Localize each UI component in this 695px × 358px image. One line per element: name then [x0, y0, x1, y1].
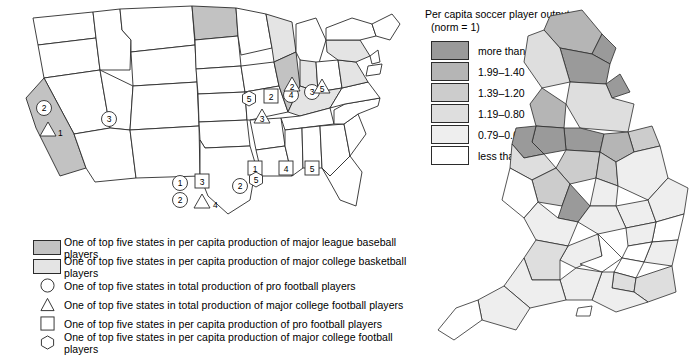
state-ok [199, 120, 250, 148]
legend-label-pro-football-percapita: One of top five states in per capita pro… [64, 318, 382, 330]
legend-label-college-football-total: One of top five states in total producti… [64, 299, 403, 311]
state-new-england [372, 14, 400, 40]
us-map-graphic: 2 3 4 3 1 2 2 1 2 5 3 4 2 3 1 4 5 [0, 0, 420, 235]
legend-row-pro-football-total: One of top five states in total producti… [30, 276, 420, 295]
svg-text:2: 2 [238, 181, 243, 191]
square-key [30, 316, 64, 331]
svg-text:5: 5 [247, 94, 252, 104]
state-mi [296, 18, 326, 66]
state-md [366, 64, 382, 76]
state-ne [196, 66, 245, 94]
england-map-graphic [420, 0, 695, 358]
svg-text:2: 2 [290, 82, 295, 92]
svg-text:3: 3 [260, 114, 265, 124]
svg-text:2: 2 [269, 92, 274, 102]
state-nd [192, 6, 238, 40]
svg-text:2: 2 [42, 103, 47, 113]
svg-text:2: 2 [178, 195, 183, 205]
svg-text:4: 4 [284, 164, 289, 174]
svg-text:5: 5 [254, 175, 259, 185]
triangle-key [30, 297, 64, 312]
svg-text:5: 5 [320, 84, 325, 94]
uk-map-panel: Per capita soccer player output (norm = … [420, 0, 695, 358]
region-cornwall [438, 300, 482, 340]
state-pa [326, 40, 370, 62]
legend-row-college-football-percapita: One of top five states in per capita pro… [30, 333, 420, 352]
state-nj [370, 50, 380, 64]
svg-text:3: 3 [107, 114, 112, 124]
state-sd [195, 36, 241, 69]
svg-text:3: 3 [200, 177, 205, 187]
us-map-legend: One of top five states in per capita pro… [30, 238, 420, 352]
svg-text:3: 3 [310, 87, 315, 97]
svg-text:1: 1 [58, 128, 63, 138]
region-isle-of-wight [576, 306, 592, 316]
state-ks [198, 92, 247, 122]
region-west-yorkshire [564, 128, 604, 152]
svg-text:4: 4 [289, 90, 294, 100]
us-map-panel: 2 3 4 3 1 2 2 1 2 5 3 4 2 3 1 4 5 [0, 0, 420, 358]
legend-label-pro-football-total: One of top five states in total producti… [64, 280, 356, 292]
legend-label-college-football-percapita: One of top five states in per capita pro… [64, 331, 420, 355]
svg-text:4: 4 [213, 200, 218, 210]
svg-text:1: 1 [178, 178, 183, 188]
state-mt [120, 6, 195, 52]
legend-row-college-basketball: One of top five states in per capita pro… [30, 257, 420, 276]
legend-label-college-basketball: One of top five states in per capita pro… [64, 255, 420, 279]
state-co [130, 82, 199, 130]
state-az [74, 128, 136, 182]
state-nm [130, 126, 200, 178]
region-lancashire [530, 88, 566, 128]
state-wy [131, 45, 197, 86]
legend-row-college-football-total: One of top five states in total producti… [30, 295, 420, 314]
swatch-dark-key [30, 240, 64, 255]
circle-key [30, 278, 64, 293]
swatch-light-key [30, 259, 64, 274]
svg-text:5: 5 [310, 164, 315, 174]
state-ny [326, 18, 376, 40]
hexagon-key [30, 335, 64, 350]
